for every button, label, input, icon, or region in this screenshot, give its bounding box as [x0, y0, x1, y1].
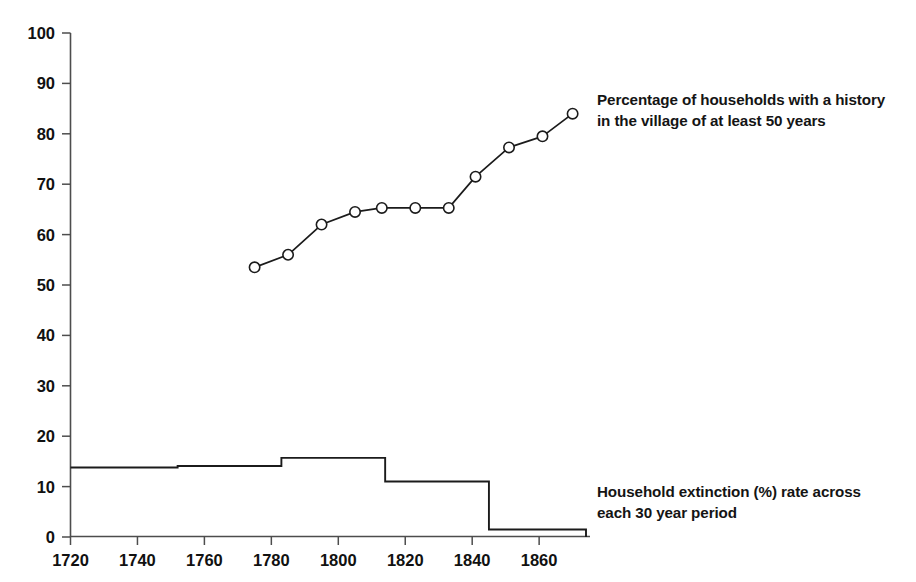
line-series-markers [249, 108, 577, 272]
y-tick-label: 90 [37, 74, 55, 92]
line-series-path [255, 114, 573, 268]
x-tick-label: 1760 [186, 551, 223, 569]
data-point-marker [283, 250, 293, 260]
y-axis-tick-labels: 0102030405060708090100 [27, 24, 55, 546]
x-axis [70, 537, 590, 546]
y-tick-label: 100 [27, 24, 55, 42]
chart-container: 0102030405060708090100 17201740176017801… [0, 0, 916, 582]
data-point-marker [470, 171, 480, 181]
series-step-household-extinction [71, 458, 587, 537]
y-axis-tick-marks [62, 33, 71, 537]
y-tick-label: 60 [37, 226, 55, 244]
y-tick-label: 40 [37, 326, 55, 344]
data-point-marker [567, 108, 577, 118]
y-tick-label: 0 [46, 528, 55, 546]
data-point-marker [350, 207, 360, 217]
data-point-marker [377, 203, 387, 213]
x-axis-tick-marks [71, 537, 540, 546]
x-tick-label: 1820 [387, 551, 424, 569]
x-axis-tick-labels: 17201740176017801800182018401860 [52, 551, 557, 569]
data-point-marker [444, 203, 454, 213]
y-tick-label: 80 [37, 125, 55, 143]
data-point-marker [249, 262, 259, 272]
series-line-household-history [249, 108, 577, 272]
annotation-line-series: Percentage of households with a history … [597, 89, 907, 131]
data-point-marker [504, 142, 514, 152]
annotation-step-series: Household extinction (%) rate across eac… [597, 481, 907, 523]
y-axis [62, 33, 71, 537]
data-point-marker [537, 131, 547, 141]
y-tick-label: 50 [37, 276, 55, 294]
data-point-marker [410, 203, 420, 213]
y-tick-label: 10 [37, 478, 55, 496]
x-tick-label: 1740 [119, 551, 156, 569]
y-tick-label: 30 [37, 377, 55, 395]
y-tick-label: 20 [37, 427, 55, 445]
step-line-path [71, 458, 587, 537]
data-point-marker [316, 219, 326, 229]
x-tick-label: 1780 [253, 551, 290, 569]
x-tick-label: 1720 [52, 551, 89, 569]
x-tick-label: 1860 [521, 551, 558, 569]
x-tick-label: 1840 [454, 551, 491, 569]
x-tick-label: 1800 [320, 551, 357, 569]
y-tick-label: 70 [37, 175, 55, 193]
